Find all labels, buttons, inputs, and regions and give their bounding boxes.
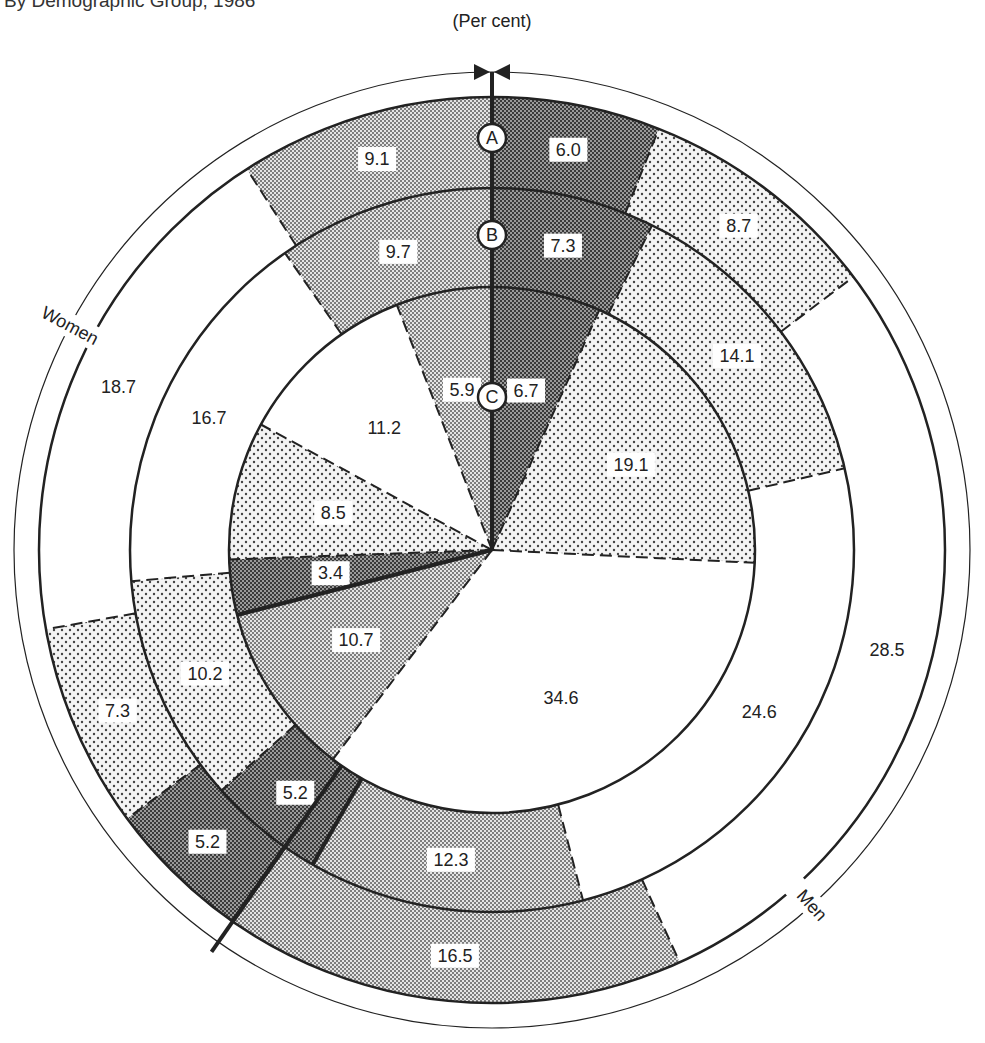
segment-value-label: 11.2	[367, 418, 401, 438]
segment-value-label: 19.1	[613, 455, 648, 475]
segment-value-label: 3.4	[318, 563, 343, 583]
segment-value-label: 28.5	[869, 640, 904, 660]
ring-marker-label: B	[486, 225, 498, 245]
segment-value-label: 6.7	[514, 381, 539, 401]
men-group-label: Men	[783, 875, 841, 936]
segment-value-label: 8.7	[726, 216, 751, 236]
arrow-icon	[494, 64, 510, 80]
segment-value-label: 12.3	[433, 850, 468, 870]
women-group-label: Women	[37, 301, 103, 351]
segment-value-label: 16.5	[437, 946, 472, 966]
ring-marker-label: C	[486, 387, 499, 407]
segment-value-label: 7.3	[550, 236, 575, 256]
segment-value-label: 14.1	[719, 346, 754, 366]
segment-value-label: 6.0	[556, 140, 581, 160]
segment-value-label: 18.7	[101, 377, 136, 397]
segment-value-label: 34.6	[543, 688, 578, 708]
segment-value-label: 9.7	[386, 242, 411, 262]
segment-value-label: 5.2	[195, 832, 220, 852]
concentric-pie-chart: 6.08.728.516.55.27.318.79.17.314.124.612…	[0, 0, 985, 1043]
segment-value-label: 10.2	[187, 664, 222, 684]
segment-value-label: 5.2	[283, 783, 308, 803]
segment-value-label: 7.3	[105, 701, 130, 721]
segment-value-label: 24.6	[742, 702, 777, 722]
ring-marker-label: A	[486, 128, 498, 148]
segment-value-label: 9.1	[365, 149, 390, 169]
segment-value-label: 5.9	[449, 380, 474, 400]
segment-value-label: 8.5	[321, 503, 346, 523]
unit-label: (Per cent)	[452, 11, 531, 31]
segment-value-label: 10.7	[339, 630, 374, 650]
arrow-icon	[474, 64, 490, 80]
segment-value-label: 16.7	[191, 408, 226, 428]
